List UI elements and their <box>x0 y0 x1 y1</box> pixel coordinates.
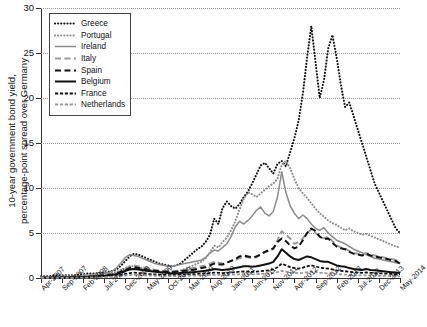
legend-label-france: France <box>81 89 106 98</box>
legend-item-france[interactable]: France <box>54 88 127 100</box>
y-tick-label-5: 5 <box>8 227 34 238</box>
legend-swatch-belgium <box>54 77 77 86</box>
y-tick-mark-25 <box>36 53 41 54</box>
legend-swatch-netherlands <box>54 100 77 109</box>
y-tick-mark-15 <box>36 143 41 144</box>
legend-label-spain: Spain <box>81 66 102 75</box>
y-tick-label-25: 25 <box>8 47 34 58</box>
legend-swatch-italy <box>54 54 77 63</box>
legend-item-greece[interactable]: Greece <box>54 18 127 30</box>
y-tick-mark-30 <box>36 8 41 9</box>
series-line-ireland <box>41 172 400 278</box>
y-tick-label-10: 10 <box>8 182 34 193</box>
legend-item-netherlands[interactable]: Netherlands <box>54 99 127 111</box>
y-tick-label-30: 30 <box>8 2 34 13</box>
legend-swatch-greece <box>54 19 77 28</box>
legend-item-ireland[interactable]: Ireland <box>54 41 127 53</box>
legend-item-belgium[interactable]: Belgium <box>54 76 127 88</box>
y-tick-label-0: 0 <box>8 272 34 283</box>
y-tick-mark-5 <box>36 233 41 234</box>
legend-label-ireland: Ireland <box>81 42 106 51</box>
legend-label-italy: Italy <box>81 54 96 63</box>
legend-item-portugal[interactable]: Portugal <box>54 30 127 42</box>
y-tick-mark-10 <box>36 188 41 189</box>
legend-label-greece: Greece <box>81 19 108 28</box>
y-tick-mark-20 <box>36 98 41 99</box>
legend-label-belgium: Belgium <box>81 77 111 86</box>
legend-label-netherlands: Netherlands <box>81 100 125 109</box>
legend-item-spain[interactable]: Spain <box>54 64 127 76</box>
y-tick-label-15: 15 <box>8 137 34 148</box>
legend-item-italy[interactable]: Italy <box>54 53 127 65</box>
legend: GreecePortugalIrelandItalySpainBelgiumFr… <box>49 13 131 116</box>
legend-swatch-ireland <box>54 42 77 51</box>
legend-label-portugal: Portugal <box>81 31 112 40</box>
legend-swatch-france <box>54 89 77 98</box>
y-tick-label-20: 20 <box>8 92 34 103</box>
legend-swatch-spain <box>54 66 77 75</box>
legend-swatch-portugal <box>54 31 77 40</box>
